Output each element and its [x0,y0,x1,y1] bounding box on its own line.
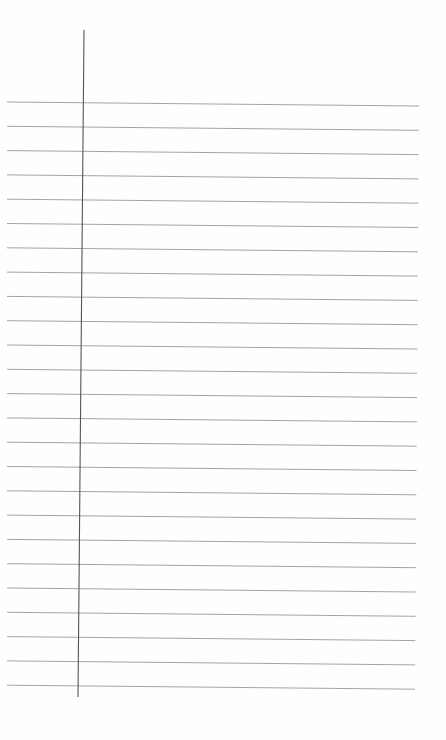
margin-line [78,30,84,697]
ruled-line [7,394,417,398]
ruled-line [7,539,416,543]
ruled-line [7,637,415,641]
ruled-line [7,345,417,349]
ruled-line [7,175,419,179]
ruled-line [7,248,418,252]
ruled-line [7,224,418,228]
ruled-line [7,491,416,495]
ruled-line [7,199,418,203]
ruled-line [7,564,416,568]
ruled-line [7,467,417,471]
ruled-line [7,151,419,155]
lined-paper [0,0,446,740]
ruled-line [7,102,419,106]
ruled-line [7,661,415,665]
ruled-line [7,588,416,592]
ruled-lines [0,0,446,740]
ruled-line [7,369,417,373]
ruled-line [7,442,417,446]
ruled-line [7,321,418,325]
ruled-line [7,418,417,422]
ruled-line [7,272,418,276]
ruled-line [7,515,416,519]
ruled-line [7,685,415,689]
ruled-line [7,296,418,300]
ruled-line [7,612,416,616]
ruled-line [7,126,419,130]
